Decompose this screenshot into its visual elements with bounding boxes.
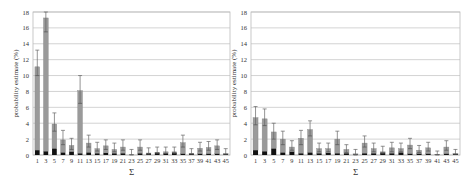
y-tick-label: 14	[241, 40, 248, 47]
bar-segment-dark	[426, 154, 431, 155]
x-tick-label: 7	[61, 157, 64, 164]
y-tick-label: 16	[23, 24, 30, 31]
x-tick-label: 31	[389, 157, 395, 164]
bar-segment-dark	[52, 149, 57, 155]
bar-segment-dark	[280, 153, 285, 155]
bar-segment-dark	[206, 154, 211, 155]
x-tick-label: 29	[380, 157, 386, 164]
x-tick-label: 1	[36, 157, 39, 164]
x-tick-label: 25	[361, 157, 367, 164]
x-tick-label: 27	[371, 157, 377, 164]
bar-segment-dark	[138, 153, 143, 155]
x-tick-label: 33	[171, 157, 177, 164]
bar-segment-dark	[289, 152, 294, 155]
x-tick-label: 45	[223, 157, 229, 164]
x-axis-label: Σ	[129, 167, 134, 177]
y-axis-label: probability estimate (%)	[231, 49, 238, 118]
bar-segment-dark	[112, 153, 117, 155]
bar-segment-dark	[417, 154, 422, 155]
bar-segment-dark	[103, 153, 108, 155]
x-tick-label: 35	[180, 157, 186, 164]
x-tick-label: 37	[188, 157, 194, 164]
x-tick-label: 5	[53, 157, 56, 164]
x-tick-label: 41	[434, 157, 440, 164]
y-tick-label: 0	[244, 152, 247, 159]
y-tick-label: 6	[26, 104, 30, 111]
y-tick-label: 16	[241, 24, 248, 31]
x-tick-label: 17	[325, 157, 331, 164]
x-tick-label: 7	[281, 157, 284, 164]
x-tick-label: 41	[205, 157, 211, 164]
y-tick-label: 8	[26, 88, 29, 95]
y-tick-label: 6	[244, 104, 248, 111]
bar-segment-dark	[398, 153, 403, 155]
x-tick-label: 17	[103, 157, 109, 164]
x-tick-label: 11	[298, 157, 304, 164]
y-tick-label: 2	[244, 136, 247, 143]
bar-segment-dark	[121, 153, 126, 155]
y-tick-label: 8	[244, 88, 247, 95]
x-tick-label: 39	[425, 157, 431, 164]
bar-segment-dark	[308, 153, 313, 155]
bar-segment-dark	[69, 152, 74, 155]
y-tick-label: 12	[241, 56, 248, 63]
bar-segment-dark	[298, 153, 303, 155]
bar-segment-gray	[35, 67, 40, 150]
x-tick-label: 15	[94, 157, 100, 164]
bar-segment-dark	[198, 154, 203, 155]
bar-segment-dark	[262, 151, 267, 155]
x-axis-label: Σ	[353, 167, 358, 177]
bar-segment-dark	[43, 151, 48, 155]
chart-panel-right: 0246810121416181357911131517192123252729…	[231, 0, 463, 178]
plot-frame	[33, 12, 230, 155]
bar-segment-dark	[35, 150, 40, 155]
bar-segment-dark	[215, 154, 220, 155]
x-tick-label: 45	[452, 157, 458, 164]
y-tick-label: 18	[23, 9, 30, 16]
y-tick-label: 4	[26, 120, 30, 127]
x-tick-label: 3	[44, 157, 47, 164]
bar-chart-left: 0246810121416181357911131517192123252729…	[0, 0, 231, 178]
x-tick-label: 37	[416, 157, 422, 164]
bar-segment-dark	[271, 149, 276, 155]
bar-segment-dark	[444, 154, 449, 155]
y-tick-label: 0	[26, 152, 29, 159]
x-tick-label: 13	[307, 157, 313, 164]
plot-frame	[251, 12, 460, 155]
y-axis-label: probability estimate (%)	[12, 49, 20, 118]
bar-segment-dark	[408, 154, 413, 155]
bar-segment-dark	[389, 153, 394, 155]
bar-segment-dark	[78, 153, 83, 155]
x-tick-label: 27	[145, 157, 151, 164]
bar-segment-dark	[335, 153, 340, 155]
bar-segment-dark	[371, 153, 376, 155]
x-tick-label: 9	[70, 157, 73, 164]
bar-segment-dark	[344, 153, 349, 155]
chart-panel-left: 0246810121416181357911131517192123252729…	[0, 0, 231, 178]
bar-segment-dark	[86, 153, 91, 155]
x-tick-label: 19	[111, 157, 117, 164]
x-tick-label: 25	[137, 157, 143, 164]
bar-segment-dark	[362, 153, 367, 155]
y-tick-label: 10	[23, 72, 30, 79]
bar-segment-dark	[61, 153, 66, 155]
y-tick-label: 14	[23, 40, 30, 47]
bar-segment-dark	[253, 150, 258, 155]
bar-segment-dark	[326, 153, 331, 155]
bar-segment-dark	[317, 153, 322, 155]
bar-segment-gray	[43, 18, 48, 151]
x-tick-label: 9	[290, 157, 293, 164]
x-tick-label: 13	[86, 157, 92, 164]
x-tick-label: 21	[343, 157, 349, 164]
bar-chart-right: 0246810121416181357911131517192123252729…	[231, 0, 463, 178]
x-tick-label: 19	[334, 157, 340, 164]
x-tick-label: 23	[352, 157, 358, 164]
x-tick-label: 5	[272, 157, 275, 164]
x-tick-label: 33	[398, 157, 404, 164]
y-tick-label: 12	[23, 56, 30, 63]
x-tick-label: 21	[120, 157, 126, 164]
y-tick-label: 18	[241, 9, 248, 16]
bar-segment-dark	[181, 154, 186, 155]
x-tick-label: 43	[443, 157, 449, 164]
x-tick-label: 11	[77, 157, 83, 164]
